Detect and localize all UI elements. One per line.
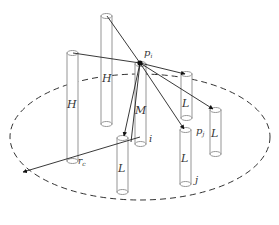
cylinder-l-right-top: L [181, 72, 192, 121]
center-point-label: pi [144, 47, 152, 59]
diagram-svg: H H L L M L L H [0, 0, 279, 225]
center-point-marker [137, 60, 142, 65]
cylinder-l-front-left: L [117, 136, 128, 195]
cylinder-h-left: H [66, 51, 78, 164]
cylinder-m-center: M [134, 62, 147, 147]
diagram-canvas: H H L L M L L H [0, 0, 279, 225]
neighbor-index-label: j [193, 174, 198, 185]
cylinder-l-front-mid: L [180, 128, 191, 187]
center-index-label: i [149, 133, 152, 144]
cylinder-h-back: H [101, 14, 112, 127]
radius-label: rc [78, 156, 86, 167]
cylinder-label: L [210, 127, 218, 140]
cylinder-label: M [134, 104, 147, 117]
cylinder-label: L [181, 97, 189, 110]
neighbor-point-label: pj [196, 125, 204, 138]
cylinder-label: L [117, 162, 125, 175]
cylinder-l-right-far: L [210, 108, 221, 157]
cylinder-label: H [66, 98, 77, 111]
cylinder-label: L [180, 152, 188, 165]
